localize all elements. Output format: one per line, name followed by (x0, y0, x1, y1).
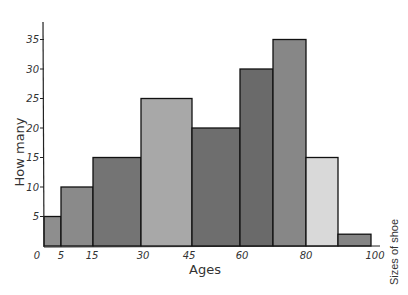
histogram-bar (240, 69, 273, 246)
x-tick-label: 5 (58, 250, 64, 261)
x-tick-label: 60 (236, 250, 249, 261)
histogram-bar (141, 99, 192, 247)
y-axis-title: How many (12, 117, 27, 186)
x-tick-label: 100 (365, 250, 384, 261)
x-tick-label: 80 (300, 250, 313, 261)
y-tick-label: 25 (26, 93, 39, 104)
x-tick-label: 45 (183, 250, 196, 261)
histogram-bar (192, 128, 240, 246)
y-axis-line (43, 22, 44, 247)
y-tick-label: 35 (26, 34, 39, 45)
side-axis-title: Sizes of shoe (388, 219, 400, 285)
y-tick-label: 5 (33, 211, 39, 222)
histogram-bar (338, 234, 371, 246)
histogram-bar (44, 217, 61, 247)
y-axis-ticks: 5101520253035 (26, 34, 44, 222)
histogram-chart: 5101520253035 051530456080100 Ages How m… (0, 0, 408, 295)
y-tick-label: 30 (26, 64, 39, 75)
histogram-bar (93, 158, 141, 247)
x-axis-ticks: 051530456080100 (34, 250, 385, 261)
x-axis-title: Ages (189, 262, 221, 277)
y-tick-label: 10 (26, 182, 39, 193)
bars-group (44, 40, 371, 247)
x-tick-label: 30 (137, 250, 150, 261)
x-tick-label: 0 (34, 250, 40, 261)
x-tick-label: 15 (86, 250, 99, 261)
histogram-bar (273, 40, 306, 247)
histogram-bar (61, 187, 93, 246)
histogram-bar (306, 158, 338, 247)
y-tick-label: 20 (26, 123, 39, 134)
y-tick-label: 15 (26, 152, 39, 163)
